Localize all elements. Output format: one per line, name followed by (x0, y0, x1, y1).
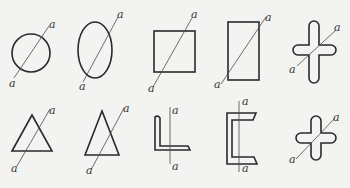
axis-label-top: a (49, 104, 56, 117)
isosceles-triangle-section: a a (85, 102, 130, 177)
channel-section: a a (227, 95, 257, 175)
square-section: a a (148, 8, 198, 95)
axis-label-top: a (334, 21, 341, 34)
axis-label-top: a (333, 111, 340, 124)
axis-label-bottom: a (289, 153, 296, 166)
axis-label-top: a (242, 95, 249, 108)
axis-label-bottom: a (86, 164, 93, 177)
axis-label-top: a (49, 18, 56, 31)
angle-section: a a (155, 104, 190, 173)
plus-section: a a (289, 111, 340, 166)
equilateral-triangle-section: a a (11, 104, 56, 175)
axis-label-bottom: a (79, 80, 86, 93)
axis-label-top: a (172, 104, 179, 117)
circle-section: a a (9, 18, 56, 90)
axis-label-bottom: a (172, 160, 179, 173)
ellipse-section: a a (78, 8, 124, 93)
axis-label-bottom: a (11, 162, 18, 175)
axis-label-bottom: a (289, 63, 296, 76)
axis-label-bottom: a (148, 82, 155, 95)
axis-label-bottom: a (9, 77, 16, 90)
shapes-diagram: a a a a a a a a a a a a a a (0, 0, 350, 188)
axis-label-top: a (265, 11, 272, 24)
axis-label-bottom: a (242, 162, 249, 175)
axis-label-top: a (117, 8, 124, 21)
axis-label-top: a (123, 102, 130, 115)
rectangle-section: a a (214, 11, 272, 91)
cross-section: a a (289, 21, 341, 83)
axis-label-top: a (191, 8, 198, 21)
axis-label-bottom: a (214, 78, 221, 91)
